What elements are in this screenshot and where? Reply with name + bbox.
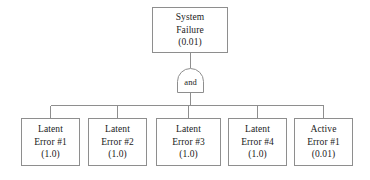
- basic-event-probability: (1.0): [248, 148, 267, 161]
- top-event-line-1: System: [176, 11, 205, 24]
- basic-event-line-1: Active: [311, 123, 337, 136]
- top-event-probability: (0.01): [178, 36, 202, 49]
- basic-event-node[interactable]: Latent Error #2 (1.0): [88, 118, 147, 166]
- top-event-node[interactable]: System Failure (0.01): [152, 7, 228, 53]
- basic-event-node[interactable]: Active Error #1 (0.01): [294, 118, 353, 166]
- top-event-line-2: Failure: [176, 24, 204, 37]
- fault-tree-diagram: and System Failure (0.01) Latent Error #…: [0, 0, 370, 180]
- basic-event-node[interactable]: Latent Error #4 (1.0): [228, 118, 287, 166]
- basic-event-probability: (1.0): [179, 148, 198, 161]
- basic-event-probability: (0.01): [312, 148, 336, 161]
- basic-event-node[interactable]: Latent Error #3 (1.0): [156, 118, 221, 166]
- basic-event-probability: (1.0): [41, 148, 60, 161]
- basic-event-line-2: Error #1: [307, 136, 340, 149]
- basic-event-line-1: Latent: [38, 123, 63, 136]
- basic-event-line-2: Error #1: [34, 136, 67, 149]
- basic-event-line-2: Error #3: [172, 136, 205, 149]
- basic-event-line-1: Latent: [176, 123, 201, 136]
- basic-event-probability: (1.0): [108, 148, 127, 161]
- basic-event-line-1: Latent: [245, 123, 270, 136]
- basic-event-node[interactable]: Latent Error #1 (1.0): [21, 118, 80, 166]
- basic-event-line-2: Error #2: [101, 136, 134, 149]
- basic-event-line-2: Error #4: [241, 136, 274, 149]
- and-gate-label: and: [177, 72, 204, 92]
- basic-event-line-1: Latent: [105, 123, 130, 136]
